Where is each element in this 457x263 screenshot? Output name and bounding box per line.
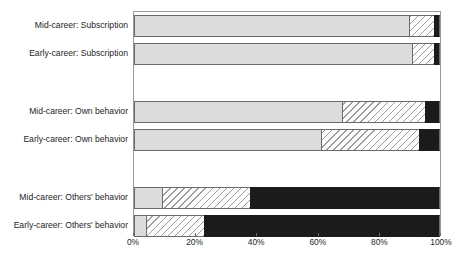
bar-track xyxy=(134,187,440,209)
bar-segment-light-gray xyxy=(134,101,342,123)
bar-segment-hatched xyxy=(162,187,251,209)
bar-segment-light-gray xyxy=(134,187,162,209)
bar-segment-black xyxy=(419,129,440,151)
x-axis-tick xyxy=(440,233,441,236)
bar-segment-hatched xyxy=(321,129,419,151)
bar-segment-black xyxy=(250,187,440,209)
bar-segment-light-gray xyxy=(134,129,321,151)
bar-segment-black xyxy=(434,15,440,37)
x-axis-tick-label: 80% xyxy=(371,237,388,247)
bar-segment-light-gray xyxy=(134,15,409,37)
bar-track xyxy=(134,101,440,123)
x-axis-tick xyxy=(133,233,134,236)
bar-segment-hatched xyxy=(412,43,433,65)
y-axis-label: Early-career: Subscription xyxy=(0,42,128,64)
bar-track xyxy=(134,15,440,37)
bar-segment-black xyxy=(434,43,440,65)
y-axis-label: Mid-career: Others' behavior xyxy=(0,186,128,208)
bar-row xyxy=(134,15,440,37)
bar-track xyxy=(134,43,440,65)
x-axis-tick-label: 40% xyxy=(248,237,265,247)
y-axis-label: Early-career: Own behavior xyxy=(0,128,128,150)
y-axis-label: Early-career: Others' behavior xyxy=(0,214,128,236)
bar-row xyxy=(134,187,440,209)
x-axis-tick-label: 60% xyxy=(309,237,326,247)
bar-row xyxy=(134,101,440,123)
stacked-bar-chart: Mid-career: SubscriptionEarly-career: Su… xyxy=(0,0,457,263)
bar-row xyxy=(134,43,440,65)
bar-track xyxy=(134,129,440,151)
x-axis-tick xyxy=(195,233,196,236)
y-axis-label: Mid-career: Subscription xyxy=(0,14,128,36)
x-axis-tick-label: 20% xyxy=(186,237,203,247)
bar-segment-light-gray xyxy=(134,43,412,65)
bar-segment-black xyxy=(425,101,440,123)
bar-segment-hatched xyxy=(342,101,425,123)
x-axis: 0%20%40%60%80%100% xyxy=(133,233,441,259)
plot-area xyxy=(133,11,441,233)
x-axis-tick-label: 0% xyxy=(127,237,139,247)
x-axis-tick xyxy=(256,233,257,236)
y-axis-label: Mid-career: Own behavior xyxy=(0,100,128,122)
x-axis-tick xyxy=(318,233,319,236)
bar-segment-hatched xyxy=(409,15,433,37)
x-axis-tick xyxy=(379,233,380,236)
bar-row xyxy=(134,129,440,151)
x-axis-tick-label: 100% xyxy=(430,237,451,247)
